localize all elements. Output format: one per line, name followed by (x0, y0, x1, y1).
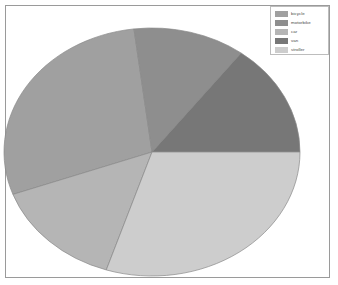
legend-item-motorbike[interactable]: motorbike (275, 18, 328, 27)
legend-label-car: car (291, 29, 297, 34)
pie-chart-figure: bicycle motorbike car van stroller (0, 0, 338, 285)
pie-plot-area (0, 22, 305, 280)
legend-label-motorbike: motorbike (291, 20, 311, 25)
legend-item-car[interactable]: car (275, 27, 328, 36)
legend-swatch-van (275, 38, 288, 44)
legend-item-van[interactable]: van (275, 36, 328, 45)
legend-item-stroller[interactable]: stroller (275, 45, 328, 54)
chart-legend: bicycle motorbike car van stroller (270, 6, 329, 55)
legend-swatch-car (275, 29, 288, 35)
legend-swatch-stroller (275, 47, 288, 53)
legend-swatch-motorbike (275, 20, 288, 26)
legend-item-bicycle[interactable]: bicycle (275, 9, 328, 18)
pie-svg (0, 22, 305, 280)
legend-swatch-bicycle (275, 11, 288, 17)
pie-slice-group (4, 28, 300, 276)
legend-label-bicycle: bicycle (291, 11, 305, 16)
legend-label-stroller: stroller (291, 47, 305, 52)
legend-label-van: van (291, 38, 298, 43)
